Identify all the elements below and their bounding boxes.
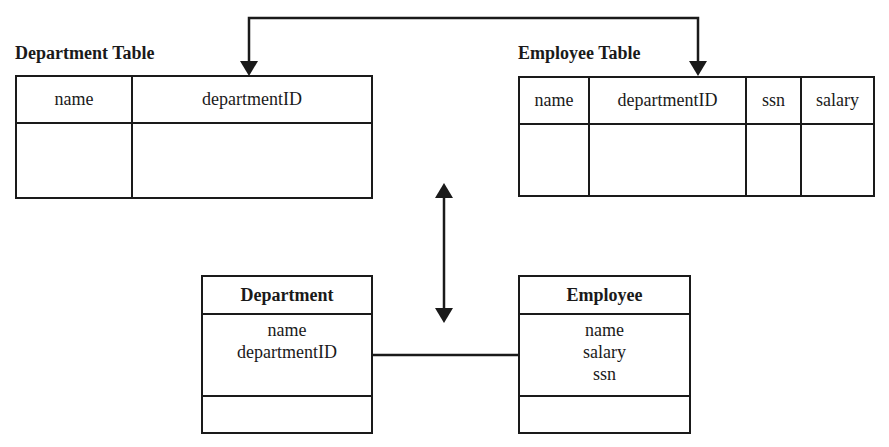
employee-table-column-salary: salary bbox=[802, 78, 873, 195]
class-operations bbox=[520, 397, 689, 432]
class-attribute: departmentID bbox=[203, 341, 371, 363]
arrowhead-up-icon bbox=[435, 183, 453, 198]
department-table-column-name: name bbox=[17, 77, 133, 197]
employee-table-column-ssn: ssn bbox=[747, 78, 802, 195]
arrowhead-down-icon bbox=[435, 308, 453, 323]
column-header: ssn bbox=[747, 78, 800, 125]
employee-class-box: Employee name salary ssn bbox=[518, 275, 691, 434]
column-cell bbox=[133, 124, 371, 197]
class-name: Employee bbox=[520, 277, 689, 315]
class-attribute: name bbox=[520, 319, 689, 341]
column-header: name bbox=[17, 77, 131, 124]
column-cell bbox=[520, 125, 588, 195]
class-attribute: ssn bbox=[520, 363, 689, 385]
connector-layer bbox=[0, 0, 889, 447]
employee-table-column-departmentid: departmentID bbox=[590, 78, 747, 195]
column-header: name bbox=[520, 78, 588, 125]
class-attributes: name salary ssn bbox=[520, 315, 689, 397]
department-class-box: Department name departmentID bbox=[201, 275, 373, 434]
column-cell bbox=[747, 125, 800, 195]
class-name: Department bbox=[203, 277, 371, 315]
class-operations bbox=[203, 397, 371, 432]
employee-table: name departmentID ssn salary bbox=[518, 76, 875, 197]
column-header: salary bbox=[802, 78, 873, 125]
department-table: name departmentID bbox=[15, 75, 373, 199]
class-attribute: name bbox=[203, 319, 371, 341]
department-table-title: Department Table bbox=[15, 43, 155, 63]
column-header: departmentID bbox=[590, 78, 745, 125]
column-cell bbox=[590, 125, 745, 195]
class-attribute: salary bbox=[520, 341, 689, 363]
employee-table-column-name: name bbox=[520, 78, 590, 195]
column-header: departmentID bbox=[133, 77, 371, 124]
employee-table-title: Employee Table bbox=[518, 43, 641, 63]
column-cell bbox=[17, 124, 131, 197]
department-table-column-departmentid: departmentID bbox=[133, 77, 371, 197]
arrowhead-down-icon bbox=[240, 61, 258, 76]
class-attributes: name departmentID bbox=[203, 315, 371, 397]
arrowhead-down-icon bbox=[689, 61, 707, 76]
column-cell bbox=[802, 125, 873, 195]
